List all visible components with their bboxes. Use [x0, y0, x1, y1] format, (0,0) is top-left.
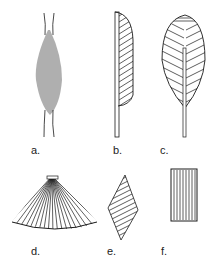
- label-a: a.: [31, 144, 40, 156]
- unipennate-muscle-icon: [115, 0, 135, 137]
- rhomboidal-muscle-icon: [100, 170, 140, 245]
- convergent-muscle-icon: [8, 176, 98, 236]
- label-c: c.: [160, 144, 169, 156]
- bipennate-muscle-icon: [160, 15, 210, 137]
- muscle-shapes-diagram: [0, 0, 213, 262]
- label-e: e.: [107, 245, 116, 257]
- label-f: f.: [161, 245, 167, 257]
- label-b: b.: [113, 144, 122, 156]
- parallel-muscle-icon: [171, 169, 197, 221]
- fusiform-muscle-icon: [36, 13, 62, 137]
- label-d: d.: [31, 245, 40, 257]
